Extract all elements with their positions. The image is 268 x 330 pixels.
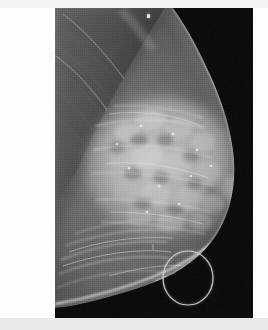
mammogram-image xyxy=(55,8,253,318)
right-margin xyxy=(253,8,268,318)
skin-marker-icon xyxy=(147,14,150,18)
top-border-band xyxy=(0,0,268,8)
radiograph-canvas xyxy=(55,8,253,318)
mammogram-viewer xyxy=(0,0,268,330)
left-margin xyxy=(0,8,55,318)
bottom-border-band xyxy=(0,318,268,330)
